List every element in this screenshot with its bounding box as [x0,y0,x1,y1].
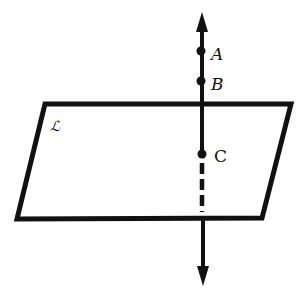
point-a [197,47,206,56]
arrowhead-down-icon [197,266,209,286]
point-c-label: C [214,146,227,166]
point-c [198,150,207,159]
diagram-canvas: ℒ A B C [0,0,303,293]
point-b [197,77,206,86]
point-b-label: B [210,74,224,94]
arrowhead-up-icon [196,12,208,32]
plane-label: ℒ [50,118,61,134]
point-a-label: A [209,44,223,64]
